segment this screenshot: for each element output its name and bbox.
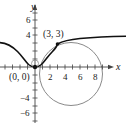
point-origin-label: (0, 0) xyxy=(9,72,30,83)
chart-svg: y x 6 4 −4 −6 2 4 6 8 (0, 0) (3, 3) xyxy=(0,0,126,123)
y-axis-label: y xyxy=(30,1,36,12)
y-tick-6: 6 xyxy=(26,15,31,25)
chart-figure: y x 6 4 −4 −6 2 4 6 8 (0, 0) (3, 3) xyxy=(0,0,126,123)
point-3-3-label: (3, 3) xyxy=(43,29,64,40)
y-tick-neg6: −6 xyxy=(20,108,30,118)
x-axis-arrow-icon xyxy=(108,65,114,69)
point-origin xyxy=(33,65,37,69)
y-tick-neg4: −4 xyxy=(20,93,30,103)
x-tick-8: 8 xyxy=(93,72,98,82)
x-tick-2: 2 xyxy=(48,72,53,82)
y-tick-4: 4 xyxy=(26,30,31,40)
x-tick-4: 4 xyxy=(63,72,68,82)
point-3-3 xyxy=(56,42,60,46)
x-tick-6: 6 xyxy=(78,72,83,82)
curve xyxy=(0,36,126,67)
x-axis-label: x xyxy=(115,61,121,72)
